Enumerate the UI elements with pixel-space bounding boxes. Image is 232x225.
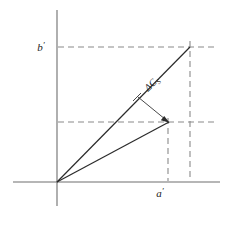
b-prime-label: b′ bbox=[37, 40, 46, 53]
labels-group: b′ a′ ΔCS bbox=[37, 40, 165, 199]
delta-c-arrow-group bbox=[133, 93, 170, 123]
perpendicular-tick-icon bbox=[133, 93, 141, 101]
vectors-group bbox=[57, 47, 190, 182]
projection-lines-group bbox=[58, 41, 217, 181]
diagram-canvas: b′ a′ ΔCS bbox=[0, 0, 232, 225]
vector-diagram-figure: b′ a′ ΔCS bbox=[0, 0, 232, 225]
upper-vector bbox=[57, 47, 190, 182]
delta-c-arrow-shaft bbox=[138, 97, 166, 120]
lower-vector bbox=[57, 122, 169, 182]
a-prime-label: a′ bbox=[156, 186, 165, 199]
